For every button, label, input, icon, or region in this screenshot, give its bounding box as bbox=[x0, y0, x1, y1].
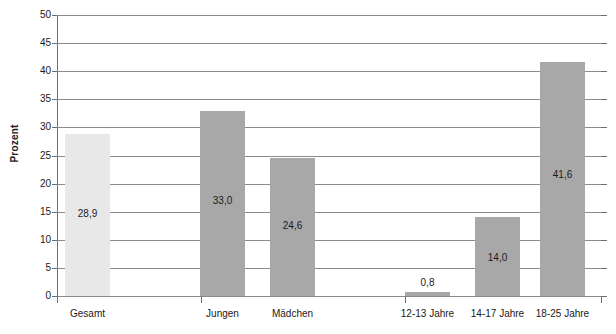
gridline bbox=[57, 15, 601, 16]
gridline bbox=[57, 43, 601, 44]
y-axis-tick-label: 15 bbox=[29, 207, 51, 217]
y-axis-tick-label: 50 bbox=[29, 10, 51, 20]
bar-value-label: 24,6 bbox=[263, 221, 323, 231]
y-axis-tick bbox=[52, 212, 57, 213]
y-axis-tick-right bbox=[601, 212, 607, 213]
y-axis-tick-label: 45 bbox=[29, 38, 51, 48]
y-axis-tick-label: 30 bbox=[29, 122, 51, 132]
x-axis-category-label: Gesamt bbox=[33, 308, 143, 319]
y-axis-tick bbox=[52, 43, 57, 44]
gridline bbox=[57, 71, 601, 72]
y-axis-tick-right bbox=[601, 99, 607, 100]
y-axis-tick-labels: 50454035302520151050 bbox=[25, 15, 51, 296]
x-axis-category-label: Mädchen bbox=[238, 308, 348, 319]
x-axis-tick bbox=[201, 296, 202, 303]
y-axis-tick bbox=[52, 15, 57, 16]
x-axis-end-tick bbox=[601, 296, 602, 303]
y-axis-tick-right bbox=[601, 184, 607, 185]
bar-value-label: 0,8 bbox=[398, 278, 458, 288]
gridline bbox=[57, 212, 601, 213]
y-axis-tick bbox=[52, 184, 57, 185]
y-axis-tick-right bbox=[601, 71, 607, 72]
y-axis-tick-right bbox=[601, 240, 607, 241]
bar-value-label: 41,6 bbox=[533, 170, 593, 180]
y-axis-tick bbox=[52, 71, 57, 72]
y-axis-tick-label: 35 bbox=[29, 94, 51, 104]
x-axis-tick bbox=[405, 296, 406, 303]
y-axis-tick bbox=[52, 99, 57, 100]
y-axis-tick-label: 40 bbox=[29, 66, 51, 76]
y-axis-tick-label: 10 bbox=[29, 235, 51, 245]
y-axis-tick-right bbox=[601, 43, 607, 44]
y-axis-tick-right bbox=[601, 156, 607, 157]
bar bbox=[405, 292, 450, 296]
y-axis-tick-label: 25 bbox=[29, 151, 51, 161]
gridline bbox=[57, 184, 601, 185]
gridline bbox=[57, 99, 601, 100]
gridline bbox=[57, 156, 601, 157]
y-axis-tick bbox=[52, 268, 57, 269]
bar-value-label: 28,9 bbox=[58, 209, 118, 219]
x-axis-category-label: 18-25 Jahre bbox=[508, 308, 616, 319]
gridline bbox=[57, 127, 601, 128]
y-axis-tick bbox=[52, 127, 57, 128]
y-axis-tick-label: 5 bbox=[29, 263, 51, 273]
y-axis-tick-label: 0 bbox=[29, 291, 51, 301]
y-axis-tick bbox=[52, 240, 57, 241]
y-axis-tick-right bbox=[601, 268, 607, 269]
gridline bbox=[57, 296, 601, 297]
y-axis-tick-right bbox=[601, 15, 607, 16]
x-axis-end-tick bbox=[57, 296, 58, 303]
y-axis-tick-right bbox=[601, 127, 607, 128]
bar-chart: Prozent 50454035302520151050 28,933,024,… bbox=[0, 0, 616, 334]
bar-value-label: 33,0 bbox=[193, 196, 253, 206]
bar-value-label: 14,0 bbox=[468, 253, 528, 263]
y-axis-title: Prozent bbox=[9, 104, 20, 184]
y-axis-tick bbox=[52, 156, 57, 157]
plot-area: 28,933,024,60,814,041,6 bbox=[57, 15, 601, 296]
y-axis-tick-label: 20 bbox=[29, 179, 51, 189]
